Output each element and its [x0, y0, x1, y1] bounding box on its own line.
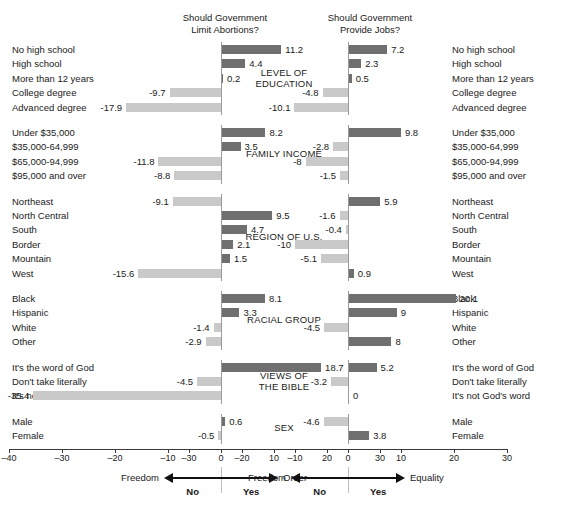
category-label-right: Female: [452, 429, 484, 443]
bar-value-label: -0.5: [0, 429, 214, 443]
bar: [349, 363, 377, 372]
axis-tick-label: –10: [282, 453, 308, 464]
group-heading: VIEWS OF THE BIBLE: [240, 370, 328, 393]
bar: [349, 308, 397, 317]
zero-line-left: [221, 42, 222, 115]
group-heading: FAMILY INCOME: [240, 148, 328, 160]
category-label-left: Under $35,000: [12, 126, 75, 140]
category-label-right: $35,000-64,999: [452, 140, 519, 154]
category-label-right: West: [452, 267, 473, 281]
category-label-right: It's not God's word: [452, 389, 530, 403]
bar-value-label: 0: [353, 389, 358, 403]
legend-right-end-label: Equality: [410, 471, 444, 484]
category-label-right: More than 12 years: [452, 72, 534, 86]
category-label-right: Other: [452, 335, 476, 349]
zero-line-right: [348, 125, 349, 184]
axis-tick-label: 30: [494, 453, 520, 464]
bar: [340, 211, 348, 220]
axis-tick-label: 10: [388, 453, 414, 464]
bar-value-label: -5.1: [0, 252, 317, 266]
bar: [349, 294, 456, 303]
bar-value-label: 11.2: [285, 43, 303, 57]
bar: [349, 74, 352, 83]
zero-line-right: [348, 360, 349, 404]
zero-line-left: [221, 291, 222, 350]
group-heading: REGION OF U.S.: [240, 231, 328, 243]
axis-right-direction-legend: FreedomEqualityNoYes: [0, 471, 568, 501]
category-label-right: Under $35,000: [452, 126, 515, 140]
category-label-right: Mountain: [452, 252, 491, 266]
bar: [173, 197, 221, 206]
bar: [206, 337, 221, 346]
legend-left-sub-label: No: [0, 485, 326, 498]
category-label-right: North Central: [452, 209, 509, 223]
bar-value-label: 9: [401, 306, 406, 320]
category-label-left: It's the word of God: [12, 361, 94, 375]
bar-value-label: 20.1: [460, 292, 479, 306]
group-heading: SEX: [240, 422, 328, 434]
category-label-left: More than 12 years: [12, 72, 94, 86]
category-label-right: Advanced degree: [452, 101, 526, 115]
bar: [321, 254, 348, 263]
bar-value-label: 2.3: [365, 57, 378, 71]
axis-tick-label: –30: [49, 453, 75, 464]
bar: [349, 431, 369, 440]
axis-tick-label: –40: [0, 453, 22, 464]
legend-arrow-shaft: [300, 477, 396, 479]
bar-value-label: -2.9: [0, 335, 202, 349]
legend-right-sub-label: Yes: [370, 485, 386, 498]
bar-value-label: 0.2: [227, 72, 240, 86]
category-label-right: Don't take literally: [452, 375, 527, 389]
bar: [349, 128, 401, 137]
bar: [294, 103, 348, 112]
legend-arrow-left-head: [291, 473, 300, 483]
zero-line-right: [348, 194, 349, 281]
axis-tick-label: –20: [102, 453, 128, 464]
zero-line-left: [221, 360, 222, 404]
category-label-right: No high school: [452, 43, 515, 57]
zero-line-left: [221, 194, 222, 281]
bar-value-label: 5.9: [384, 195, 397, 209]
category-label-right: Hispanic: [452, 306, 488, 320]
bar: [222, 45, 281, 54]
bar-value-label: 0.9: [358, 267, 371, 281]
bar: [331, 377, 348, 386]
right-panel-title: Should Government Provide Jobs?: [295, 12, 445, 35]
bar: [333, 142, 348, 151]
zero-line-left: [221, 125, 222, 184]
bar-value-label: -10.1: [0, 101, 290, 115]
zero-line-right: [348, 414, 349, 444]
bar: [349, 337, 391, 346]
zero-line-right: [348, 42, 349, 115]
legend-center-line: [348, 467, 349, 493]
bar: [222, 308, 239, 317]
category-label-left: No high school: [12, 43, 75, 57]
category-label-left: Hispanic: [12, 306, 48, 320]
legend-left-end-label: Freedom: [0, 471, 286, 484]
bar-value-label: 5.2: [381, 361, 394, 375]
bar: [349, 197, 380, 206]
axis-tick-label: 20: [441, 453, 467, 464]
left-panel-title: Should Government Limit Abortions?: [150, 12, 300, 35]
group-heading: LEVEL OF EDUCATION: [240, 67, 328, 90]
category-label-right: $65,000-94,999: [452, 155, 519, 169]
bar: [349, 269, 354, 278]
category-label-right: $95,000 and over: [452, 169, 526, 183]
bar: [349, 45, 387, 54]
bar-value-label: 8.1: [269, 292, 282, 306]
bar-value-label: 7.2: [391, 43, 404, 57]
chart-root: Should Government Limit Abortions? Shoul…: [0, 0, 568, 514]
category-label-left: Black: [12, 292, 35, 306]
group-heading: RACIAL GROUP: [240, 314, 328, 326]
category-label-right: Northeast: [452, 195, 493, 209]
bar-value-label: -35.4: [0, 389, 29, 403]
category-label-left: High school: [12, 57, 62, 71]
bar-value-label: -1.5: [0, 169, 336, 183]
bar-value-label: 8.2: [269, 126, 282, 140]
category-label-right: Border: [452, 238, 481, 252]
axis-tick-label: –20: [229, 453, 255, 464]
category-label-right: White: [452, 321, 476, 335]
axis-right: –30–20–100102030: [189, 449, 507, 463]
category-label-right: South: [452, 223, 477, 237]
bar: [323, 88, 348, 97]
